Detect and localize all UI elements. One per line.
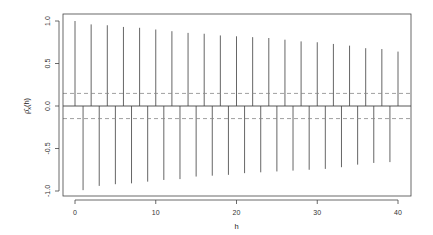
y-tick-label: 0.5 (44, 59, 51, 69)
x-tick-label: 30 (313, 209, 321, 216)
x-tick-label: 20 (233, 209, 241, 216)
y-tick-label: -1.0 (44, 185, 51, 197)
x-tick-label: 40 (394, 209, 402, 216)
y-axis-label-group: ρ̂x(h) (22, 97, 32, 114)
y-axis-label: ρ̂x(h) (22, 97, 32, 114)
y-tick-label: 1.0 (44, 16, 51, 26)
x-axis-label: h (234, 222, 238, 231)
x-tick-label: 0 (73, 209, 77, 216)
x-tick-label: 10 (152, 209, 160, 216)
x-axis: 010203040 (73, 200, 402, 216)
y-axis: -1.0-0.50.00.51.0 (44, 16, 59, 197)
acf-plot: 010203040 -1.0-0.50.00.51.0 h ρ̂x(h) (0, 0, 433, 235)
y-tick-label: 0.0 (44, 101, 51, 111)
y-tick-label: -0.5 (44, 142, 51, 154)
